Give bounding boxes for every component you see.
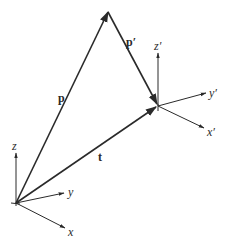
x-prime-axis	[158, 106, 204, 128]
y-axis-label: y	[67, 185, 74, 199]
vector-p-prime-label: p′	[126, 35, 136, 49]
z-axis-label: z	[11, 139, 17, 153]
z-prime-axis-label: z′	[153, 39, 162, 53]
vector-p-label: p	[58, 91, 65, 105]
vector-t	[16, 107, 156, 203]
vector-t-label: t	[98, 150, 102, 164]
y-prime-axis-label: y′	[208, 86, 217, 100]
local-frame: z′ y′ x′	[153, 39, 217, 139]
vector-p	[16, 12, 108, 203]
transform-diagram: z y x z′ y′ x′ p p′ t	[0, 0, 226, 249]
vectors: p p′ t	[16, 12, 157, 203]
world-frame: z y x	[11, 139, 74, 239]
x-axis	[16, 203, 65, 228]
x-axis-label: x	[67, 225, 74, 239]
y-prime-axis	[158, 93, 206, 106]
x-prime-axis-label: x′	[206, 125, 215, 139]
vector-p-prime	[108, 12, 157, 104]
